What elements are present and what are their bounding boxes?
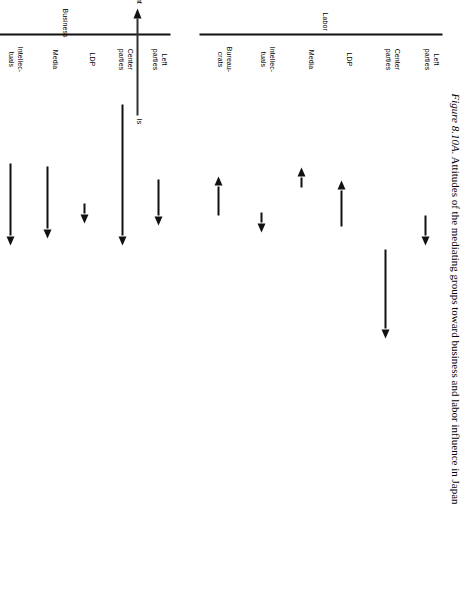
labor-arrow-intellectuals	[260, 212, 262, 222]
figure-caption: Figure 8.10A. Attitudes of the mediating…	[444, 0, 468, 597]
business-arrow-media	[46, 166, 48, 228]
labor-group-label-ldp: LDP	[344, 42, 353, 76]
labor-group-label-center-parties: Center parties	[383, 42, 400, 76]
legend-is-ought-arrow	[137, 18, 139, 115]
business-group-label-left-parties: Left parties	[150, 42, 167, 76]
labor-group-label-media: Media	[306, 42, 315, 76]
legend-label-ought: Ought	[134, 0, 143, 3]
business-group-label-media: Media	[50, 42, 59, 76]
business-group-label-intellectuals: Intellec- tuals	[6, 42, 23, 76]
legend-label-is: Is	[134, 118, 143, 124]
figure-caption-text: Attitudes of the mediating groups toward…	[450, 156, 462, 504]
business-arrow-ldp	[83, 203, 85, 213]
business-panel-bracket	[0, 33, 170, 35]
business-arrow-left-parties	[157, 179, 159, 215]
labor-group-label-left-parties: Left parties	[422, 42, 439, 76]
labor-arrow-left-parties	[424, 215, 426, 235]
business-panel-title: Business	[60, 8, 68, 37]
labor-arrow-center-parties	[384, 249, 386, 328]
business-arrow-intellectuals	[9, 163, 11, 235]
labor-arrow-bureaucrats	[217, 186, 219, 215]
business-group-label-ldp: LDP	[87, 42, 96, 76]
figure-plate: Labor Bureau- crats Intellec- tuals Medi…	[0, 0, 470, 597]
labor-group-label-bureaucrats: Bureau- crats	[215, 42, 232, 76]
business-group-label-center-parties: Center parties	[116, 42, 133, 76]
labor-panel-title: Labor	[320, 12, 328, 30]
labor-arrow-media	[300, 177, 302, 187]
business-arrow-center-parties	[121, 104, 123, 235]
labor-group-label-intellectuals: Intellec- tuals	[258, 42, 275, 76]
labor-arrow-ldp	[340, 190, 342, 226]
labor-panel-bracket	[199, 33, 442, 35]
figure-number: Figure 8.10A.	[450, 93, 462, 154]
